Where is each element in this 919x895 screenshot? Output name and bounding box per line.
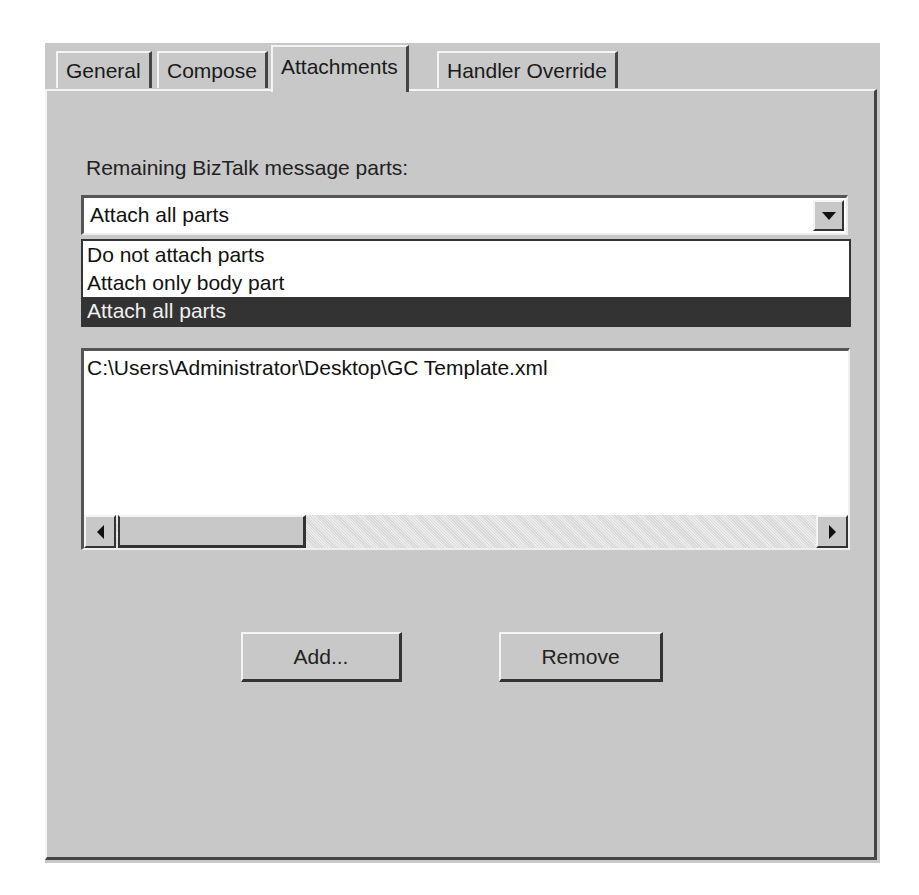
scrollbar-thumb[interactable] xyxy=(118,515,306,548)
tab-handler-override[interactable]: Handler Override xyxy=(437,51,618,88)
dropdown-option-attach-body[interactable]: Attach only body part xyxy=(83,269,849,297)
attachments-tab-panel: Remaining BizTalk message parts: Attach … xyxy=(45,89,877,860)
chevron-down-icon xyxy=(822,212,836,220)
combobox-value: Attach all parts xyxy=(90,203,229,227)
dropdown-option-attach-all[interactable]: Attach all parts xyxy=(83,297,849,325)
list-item[interactable]: C:\Users\Administrator\Desktop\GC Templa… xyxy=(87,356,548,380)
tab-general[interactable]: General xyxy=(56,51,152,88)
add-button[interactable]: Add... xyxy=(241,632,402,682)
dropdown-option-do-not-attach[interactable]: Do not attach parts xyxy=(83,241,849,269)
attachment-files-list[interactable]: C:\Users\Administrator\Desktop\GC Templa… xyxy=(81,348,850,550)
message-parts-label: Remaining BizTalk message parts: xyxy=(86,156,408,180)
tab-label: Compose xyxy=(167,59,257,82)
remove-button[interactable]: Remove xyxy=(499,632,663,682)
tab-label: Attachments xyxy=(281,55,398,78)
tab-attachments[interactable]: Attachments xyxy=(271,45,409,92)
tab-compose[interactable]: Compose xyxy=(157,51,268,88)
message-parts-dropdown-list: Do not attach parts Attach only body par… xyxy=(81,239,851,327)
arrow-left-icon xyxy=(97,525,104,539)
scroll-left-button[interactable] xyxy=(84,515,116,548)
tab-label: Handler Override xyxy=(447,59,607,82)
button-label: Remove xyxy=(541,645,619,669)
scroll-right-button[interactable] xyxy=(816,515,848,548)
horizontal-scrollbar[interactable] xyxy=(84,515,848,548)
combobox-dropdown-button[interactable] xyxy=(813,200,844,231)
arrow-right-icon xyxy=(829,525,836,539)
properties-dialog: General Compose Attachments Handler Over… xyxy=(45,43,880,863)
tab-label: General xyxy=(66,59,141,82)
message-parts-combobox[interactable]: Attach all parts xyxy=(81,195,848,235)
button-label: Add... xyxy=(294,645,349,669)
